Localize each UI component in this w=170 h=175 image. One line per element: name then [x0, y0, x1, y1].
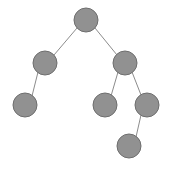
tree-node	[135, 93, 159, 117]
tree-node	[117, 134, 141, 158]
tree-node	[74, 8, 98, 32]
tree-edge	[111, 72, 118, 96]
tree-node	[93, 93, 117, 117]
tree-edge-group	[32, 28, 141, 137]
tree-edge	[95, 28, 117, 55]
tree-node	[113, 51, 137, 75]
tree-edge	[32, 72, 38, 96]
tree-edge	[132, 72, 141, 95]
tree-canvas	[0, 0, 170, 175]
tree-node	[13, 93, 37, 117]
tree-node	[33, 51, 57, 75]
binary-tree-figure	[0, 0, 170, 175]
tree-edge	[54, 28, 77, 55]
tree-edge	[136, 115, 141, 137]
